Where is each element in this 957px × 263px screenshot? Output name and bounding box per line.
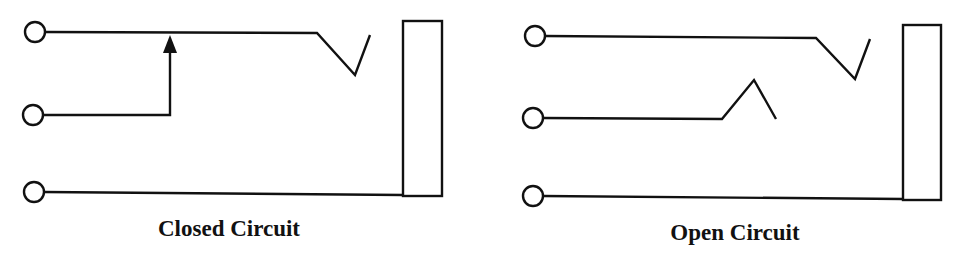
sleeve-wire [44,192,403,195]
terminal-top-icon [25,22,45,42]
terminal-top-icon [525,26,545,46]
terminal-bottom-icon [24,182,44,202]
switch-contact-wire [43,50,170,115]
tip-contact-wire [45,32,370,75]
sleeve-wire [543,196,903,199]
circuit-diagrams [0,0,957,263]
terminal-middle-icon [23,105,43,125]
switch-contact-wire [543,80,776,119]
jack-body-rect [903,25,941,200]
open-circuit-caption: Open Circuit [670,220,799,246]
open-circuit-diagram [523,25,941,206]
closed-circuit-caption: Closed Circuit [158,216,300,242]
tip-contact-wire [545,36,870,79]
arrow-up-icon [163,35,177,53]
jack-body-rect [403,21,442,196]
terminal-middle-icon [523,108,543,128]
terminal-bottom-icon [523,186,543,206]
closed-circuit-diagram [23,21,442,202]
